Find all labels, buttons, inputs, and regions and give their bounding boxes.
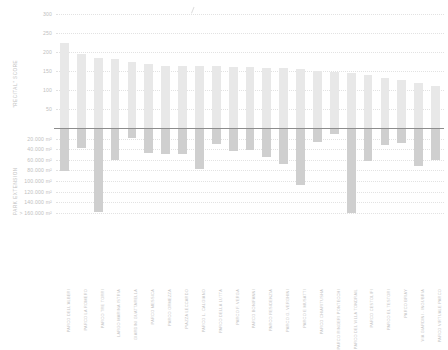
bar-group[interactable] xyxy=(161,10,170,232)
category-label: PARCO ORMEZZA xyxy=(167,289,172,326)
bar-extension[interactable] xyxy=(128,128,137,138)
bar-group[interactable] xyxy=(397,10,406,232)
bar-extension[interactable] xyxy=(313,128,322,142)
lower-tick-label: 20.000 m² xyxy=(27,136,52,142)
bar-extension[interactable] xyxy=(212,128,221,144)
bar-score[interactable] xyxy=(397,80,406,128)
bar-group[interactable] xyxy=(94,10,103,232)
lower-tick-label: 80.000 m² xyxy=(27,167,52,173)
bar-score[interactable] xyxy=(330,72,339,128)
bar-score[interactable] xyxy=(212,66,221,128)
lower-axis-tick-labels: 20.000 m²40.000 m²60.000 m²80.000 m²100.… xyxy=(0,0,52,291)
category-label: PARCO MESSICA xyxy=(150,289,155,324)
bar-group[interactable] xyxy=(178,10,187,232)
category-label: PARCO DELLA LUTTA xyxy=(218,289,223,333)
category-label: PARCO BRIAY xyxy=(403,289,408,318)
bar-group[interactable] xyxy=(195,10,204,232)
bar-group[interactable] xyxy=(229,10,238,232)
lower-tick-label: 140.000 m² xyxy=(24,199,52,205)
bar-group[interactable] xyxy=(364,10,373,232)
bar-score[interactable] xyxy=(431,86,440,128)
category-label: PARCO F. VERGA xyxy=(235,289,240,325)
plot-area xyxy=(56,10,444,232)
bar-group[interactable] xyxy=(296,10,305,232)
bar-extension[interactable] xyxy=(364,128,373,161)
category-label: PARCO E MUSATTI xyxy=(302,289,307,328)
bar-score[interactable] xyxy=(246,67,255,128)
bar-group[interactable] xyxy=(262,10,271,232)
bar-group[interactable] xyxy=(279,10,288,232)
bar-score[interactable] xyxy=(144,64,153,128)
lower-tick-label: 40.000 m² xyxy=(27,146,52,152)
bar-score[interactable] xyxy=(313,71,322,128)
category-label: VIA GIARDINI - INGUBRIA xyxy=(420,289,425,341)
lower-tick-label: > 160.000 m² xyxy=(19,210,52,216)
category-label: PARCO CESTOLIFI xyxy=(369,289,374,327)
bar-extension[interactable] xyxy=(229,128,238,151)
bar-score[interactable] xyxy=(195,66,204,128)
bar-score[interactable] xyxy=(178,66,187,128)
bar-score[interactable] xyxy=(161,66,170,128)
lower-tick-label: 60.000 m² xyxy=(27,157,52,163)
bar-group[interactable] xyxy=(60,10,69,232)
category-label: PARCO DEL VILLA TONDRAIL xyxy=(353,289,358,349)
bar-score[interactable] xyxy=(347,73,356,128)
bar-extension[interactable] xyxy=(246,128,255,150)
category-label: PARCO VIRTUALE PARCO xyxy=(437,289,442,342)
bar-extension[interactable] xyxy=(414,128,423,166)
bar-group[interactable] xyxy=(128,10,137,232)
bar-score[interactable] xyxy=(262,68,271,128)
bar-extension[interactable] xyxy=(279,128,288,164)
bar-score[interactable] xyxy=(381,78,390,128)
bar-group[interactable] xyxy=(212,10,221,232)
bar-extension[interactable] xyxy=(178,128,187,154)
category-label: PARCO BONIFANNI xyxy=(251,289,256,328)
bar-extension[interactable] xyxy=(381,128,390,145)
category-axis-labels: PARCO DELL'ALBERIPARCO LA ROMEROPARCO TR… xyxy=(56,234,444,291)
bar-extension[interactable] xyxy=(262,128,271,157)
bar-group[interactable] xyxy=(246,10,255,232)
category-label: PARCO LA ROMERO xyxy=(83,289,88,331)
lower-tick-label: 100.000 m² xyxy=(24,178,52,184)
bar-group[interactable] xyxy=(111,10,120,232)
bar-extension[interactable] xyxy=(94,128,103,212)
bar-group[interactable] xyxy=(381,10,390,232)
bar-group[interactable] xyxy=(144,10,153,232)
bar-score[interactable] xyxy=(111,59,120,128)
bar-extension[interactable] xyxy=(77,128,86,148)
bar-extension[interactable] xyxy=(431,128,440,160)
category-label: PARCO L. CALGIANO xyxy=(201,289,206,332)
bar-score[interactable] xyxy=(77,54,86,128)
zero-baseline xyxy=(54,128,444,129)
bars-layer xyxy=(56,10,444,232)
category-label: PARCO RESIDENZIA xyxy=(268,289,273,331)
bar-group[interactable] xyxy=(77,10,86,232)
bar-extension[interactable] xyxy=(347,128,356,213)
bar-group[interactable] xyxy=(330,10,339,232)
bar-extension[interactable] xyxy=(195,128,204,169)
category-label: LARGO MARINA ISTRIA xyxy=(116,289,121,337)
bar-extension[interactable] xyxy=(397,128,406,143)
bar-score[interactable] xyxy=(229,67,238,128)
category-label: PIAZZA LECCARDO xyxy=(184,289,189,329)
category-label: PARCO TRE TORRI xyxy=(100,289,105,328)
bar-extension[interactable] xyxy=(161,128,170,154)
bar-extension[interactable] xyxy=(60,128,69,171)
bar-score[interactable] xyxy=(128,62,137,128)
category-label: PARCO G. VERGHINI xyxy=(285,289,290,332)
bar-score[interactable] xyxy=(364,75,373,128)
bar-group[interactable] xyxy=(431,10,440,232)
bar-group[interactable] xyxy=(347,10,356,232)
bar-group[interactable] xyxy=(313,10,322,232)
bar-extension[interactable] xyxy=(296,128,305,185)
bar-extension[interactable] xyxy=(144,128,153,153)
bar-group[interactable] xyxy=(414,10,423,232)
bar-score[interactable] xyxy=(414,83,423,128)
bar-score[interactable] xyxy=(279,68,288,128)
bar-extension[interactable] xyxy=(111,128,120,160)
bar-score[interactable] xyxy=(296,69,305,128)
bar-score[interactable] xyxy=(94,58,103,128)
lower-tick-label: 120.000 m² xyxy=(24,189,52,195)
bar-score[interactable] xyxy=(60,43,69,128)
